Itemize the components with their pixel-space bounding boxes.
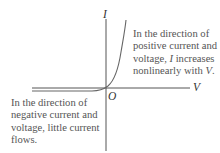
note-line: voltage, little current xyxy=(11,122,100,134)
origin-label: O xyxy=(108,90,116,102)
note-line: In the direction of xyxy=(133,28,217,40)
negative-direction-note: In the direction of negative current and… xyxy=(11,97,100,147)
note-line: In the direction of xyxy=(11,97,100,109)
current-axis-label: I xyxy=(103,8,107,20)
note-line: negative current and xyxy=(11,109,100,121)
note-line: nonlinearly with V. xyxy=(133,65,217,77)
iv-curve xyxy=(32,20,126,91)
note-line: flows. xyxy=(11,134,100,146)
note-line: positive current and xyxy=(133,40,217,52)
positive-direction-note: In the direction of positive current and… xyxy=(133,28,217,78)
voltage-axis-label: V xyxy=(193,81,200,93)
iv-characteristic-diagram: I V O In the direction of positive curre… xyxy=(0,0,220,153)
note-line: voltage, I increases xyxy=(133,53,217,65)
